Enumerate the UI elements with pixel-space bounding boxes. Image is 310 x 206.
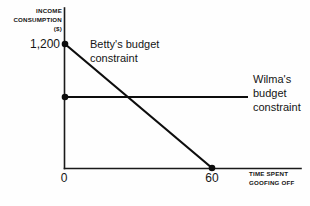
x-axis-title-line1: TIME SPENT [249,170,288,177]
x-axis-title: TIME SPENTGOOFING OFF [249,170,295,188]
x-axis-title-line2: GOOFING OFF [249,179,295,186]
betty-intercept-marker [62,41,69,48]
x-tick-label-60: 60 [201,171,223,185]
wilma-series-label: Wilma'sbudgetconstraint [253,73,301,114]
y-axis-title-line2: CONSUMPTION [13,16,62,23]
betty-series-label-line2: constraint [90,52,138,64]
wilma-series-label-line2: budget [253,87,287,99]
wilma-series-label-line1: Wilma's [253,73,291,85]
chart-canvas: INCOMECONSUMPTION($) TIME SPENTGOOFING O… [0,0,310,206]
wilma-intercept-marker [62,94,69,101]
betty-series-label: Betty's budgetconstraint [90,38,159,66]
wilma-series-label-line3: constraint [253,101,301,113]
y-axis-title-line3: ($) [54,25,62,32]
x-tick-label-0: 0 [56,171,72,185]
y-axis-title-line1: INCOME [36,7,62,14]
y-tick-label-1200: 1,200 [24,37,60,51]
betty-series-label-line1: Betty's budget [90,38,159,50]
y-axis-title: INCOMECONSUMPTION($) [2,7,62,34]
